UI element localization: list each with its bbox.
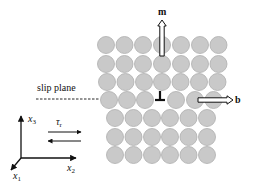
- atom: [135, 37, 152, 54]
- atom: [162, 110, 179, 127]
- atom: [210, 56, 227, 73]
- m-vector-label: m: [158, 7, 166, 17]
- tau-subscript: r: [60, 121, 62, 129]
- atom: [117, 74, 134, 91]
- atom: [107, 110, 124, 127]
- resolved-shear-stress-label: τr: [56, 117, 62, 129]
- atom: [116, 37, 133, 54]
- atom: [136, 74, 153, 91]
- shear-stress-arrows: [48, 132, 81, 141]
- atom: [119, 92, 136, 109]
- atom: [125, 147, 142, 164]
- atom: [98, 56, 115, 73]
- atom: [192, 37, 209, 54]
- atom: [107, 147, 124, 164]
- burgers-vector-label: b: [235, 95, 241, 105]
- atom: [162, 129, 179, 146]
- atom: [192, 56, 209, 73]
- x1-axis-line: [11, 158, 21, 170]
- atom: [199, 110, 216, 127]
- atom: [144, 147, 161, 164]
- atom: [154, 56, 171, 73]
- atom: [162, 147, 179, 164]
- atom: [172, 74, 189, 91]
- atom: [199, 129, 216, 146]
- slip-plane-label: slip plane: [37, 83, 76, 93]
- x2-axis-label: x2: [67, 163, 75, 175]
- atom: [209, 74, 226, 91]
- atom: [180, 110, 197, 127]
- atom: [99, 74, 116, 91]
- atom: [144, 110, 161, 127]
- atom: [191, 74, 208, 91]
- atom: [199, 147, 216, 164]
- atom: [144, 129, 161, 146]
- x1-axis-label: x1: [13, 171, 21, 183]
- atom: [173, 37, 190, 54]
- atom: [180, 129, 197, 146]
- edge-dislocation-symbol: [155, 91, 165, 100]
- atom: [135, 56, 152, 73]
- atom: [168, 92, 185, 109]
- atom: [107, 129, 124, 146]
- atom: [116, 56, 133, 73]
- atom: [101, 92, 118, 109]
- x3-subscript: 3: [32, 118, 36, 126]
- atom: [125, 110, 142, 127]
- atom: [210, 37, 227, 54]
- x1-subscript: 1: [17, 175, 21, 183]
- atom: [173, 56, 190, 73]
- atom: [125, 129, 142, 146]
- atom: [137, 92, 154, 109]
- atom: [154, 74, 171, 91]
- atom: [180, 147, 197, 164]
- atom: [98, 37, 115, 54]
- x3-axis-label: x3: [28, 114, 36, 126]
- x2-subscript: 2: [71, 167, 75, 175]
